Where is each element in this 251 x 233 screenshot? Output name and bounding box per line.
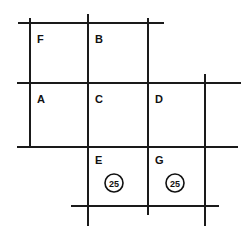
label-a: A <box>37 93 45 105</box>
token-25-under-e-text: 25 <box>109 179 119 189</box>
label-d: D <box>155 93 163 105</box>
label-f: F <box>37 33 44 45</box>
label-g: G <box>155 154 164 166</box>
label-b: B <box>95 33 103 45</box>
token-25-under-e: 25 <box>105 174 123 192</box>
cell-labels-group: FBACDEG <box>37 33 164 166</box>
token-25-under-g: 25 <box>166 174 184 192</box>
grid-diagram: FBACDEG 2525 <box>0 0 251 233</box>
label-c: C <box>95 93 103 105</box>
diagram-canvas: FBACDEG 2525 <box>0 0 251 233</box>
label-e: E <box>95 154 102 166</box>
tokens-group: 2525 <box>105 174 184 192</box>
grid-lines-group <box>17 14 241 226</box>
token-25-under-g-text: 25 <box>170 179 180 189</box>
